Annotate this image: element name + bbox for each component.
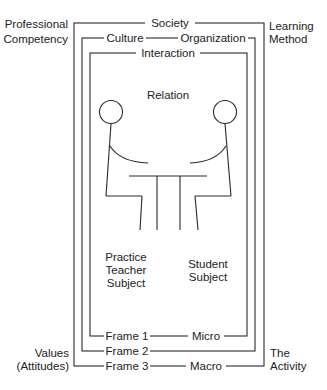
teacher-figure-icon xyxy=(100,101,149,231)
the-label: The xyxy=(270,347,290,359)
student-subject-label: Subject xyxy=(189,271,228,283)
frames-diagram: Society Culture Organization Interaction… xyxy=(0,0,327,390)
learning-label: Learning xyxy=(269,20,314,32)
student-figure-icon xyxy=(190,101,237,231)
attitudes-label: (Attitudes) xyxy=(17,360,70,372)
practice-label: Practice xyxy=(105,251,147,263)
professional-label: Professional xyxy=(5,18,68,30)
competency-label: Competency xyxy=(3,33,68,45)
outer-frame xyxy=(74,23,264,366)
method-label: Method xyxy=(269,33,307,45)
society-label: Society xyxy=(151,17,189,29)
activity-label: Activity xyxy=(270,360,307,372)
culture-label: Culture xyxy=(106,32,143,44)
macro-label: Macro xyxy=(190,360,222,372)
frame-1-label: Frame 1 xyxy=(106,330,149,342)
micro-label: Micro xyxy=(192,330,220,342)
student-label: Student xyxy=(188,258,228,270)
frame-3-label: Frame 3 xyxy=(106,360,149,372)
frame-2-label: Frame 2 xyxy=(106,345,149,357)
organization-label: Organization xyxy=(180,32,245,44)
values-label: Values xyxy=(35,347,70,359)
middle-frame xyxy=(82,38,255,351)
teacher-label: Teacher xyxy=(106,264,147,276)
relation-label: Relation xyxy=(147,89,189,101)
teacher-subject-label: Subject xyxy=(107,277,146,289)
interaction-label: Interaction xyxy=(141,47,195,59)
